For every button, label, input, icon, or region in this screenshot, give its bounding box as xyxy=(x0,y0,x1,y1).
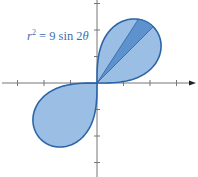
polar-lemniscate-diagram xyxy=(0,0,198,177)
equation-label: r2 = 9 sin 2θ xyxy=(27,28,89,44)
axes xyxy=(2,0,196,177)
lobe-third-quadrant xyxy=(33,83,97,147)
x-axis-arrow-icon xyxy=(189,81,196,86)
